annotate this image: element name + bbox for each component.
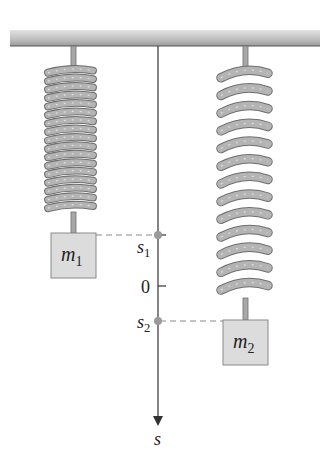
- mass-1-label-sub: 1: [75, 254, 82, 269]
- mass-2-label-main: m: [233, 330, 247, 352]
- spring-mass-diagram: [0, 0, 332, 465]
- axis-s-label: s: [154, 430, 161, 448]
- s2-label: s2: [137, 313, 150, 335]
- mass-2-label: m2: [233, 331, 254, 356]
- spring-2: [221, 46, 268, 320]
- mass-2-label-sub: 2: [247, 341, 254, 356]
- s1-label-sub: 1: [144, 246, 150, 260]
- s1-label-main: s: [137, 237, 144, 257]
- s2-label-main: s: [137, 312, 144, 332]
- mass-1-label: m1: [61, 244, 82, 269]
- s1-marker: [154, 231, 162, 239]
- ceiling: [10, 30, 320, 46]
- s2-label-sub: 2: [144, 321, 150, 335]
- s2-marker: [154, 317, 162, 325]
- mass-1-label-main: m: [61, 243, 75, 265]
- s1-label: s1: [137, 238, 150, 260]
- spring-1: [48, 46, 93, 233]
- zero-label: 0: [141, 278, 150, 296]
